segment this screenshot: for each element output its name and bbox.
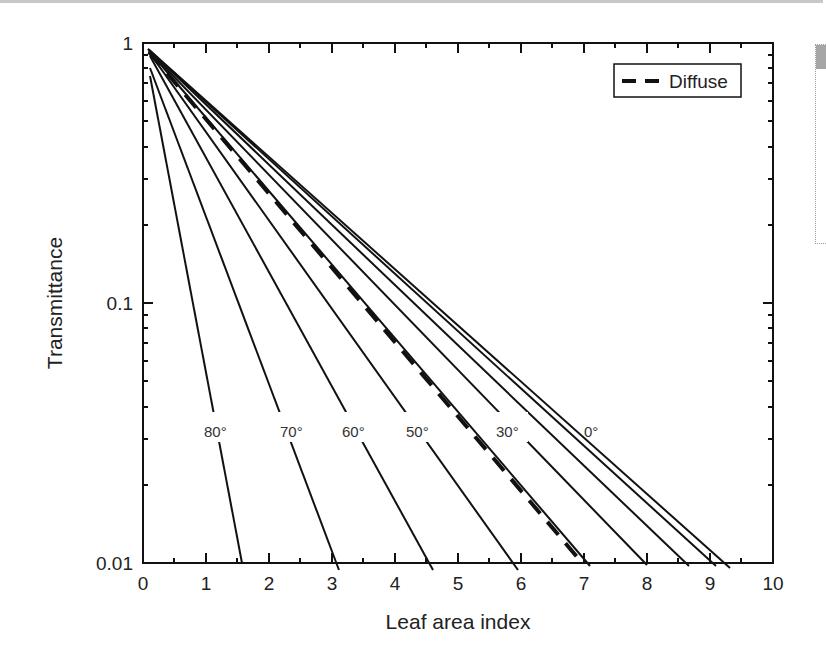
y-tick-1: 1 [122, 33, 133, 54]
x-tick-0: 0 [138, 573, 149, 594]
line-diffuse [149, 52, 578, 558]
line-70 [150, 68, 339, 570]
line-20 [149, 50, 689, 566]
y-tick-0.01: 0.01 [96, 553, 133, 574]
line-30 [149, 51, 647, 565]
legend-diffuse-label: Diffuse [669, 71, 728, 92]
x-tick-1: 1 [201, 573, 212, 594]
legend: Diffuse [614, 64, 741, 97]
label-50: 50° [406, 423, 429, 440]
x-tick-5: 5 [453, 573, 464, 594]
label-80: 80° [204, 423, 227, 440]
curves [148, 49, 730, 570]
x-tick-9: 9 [705, 573, 716, 594]
label-30: 30° [496, 423, 519, 440]
y-axis-title: Transmittance [43, 237, 66, 369]
x-tick-3: 3 [327, 573, 338, 594]
y-ticks [143, 55, 773, 485]
line-10 [148, 49, 716, 566]
line-50 [149, 52, 518, 570]
x-tick-7: 7 [579, 573, 590, 594]
label-70: 70° [280, 423, 303, 440]
line-60 [150, 56, 433, 570]
x-tick-8: 8 [642, 573, 653, 594]
x-tick-4: 4 [390, 573, 401, 594]
x-tick-6: 6 [516, 573, 527, 594]
x-tick-2: 2 [264, 573, 275, 594]
label-60: 60° [342, 423, 365, 440]
x-axis-title: Leaf area index [386, 610, 531, 633]
line-0 [148, 49, 730, 568]
x-tick-10: 10 [762, 573, 783, 594]
line-80 [150, 76, 242, 563]
label-0: 0° [584, 423, 598, 440]
y-tick-0.1: 0.1 [107, 293, 133, 314]
